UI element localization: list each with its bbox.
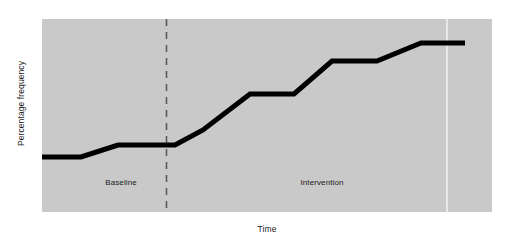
y-axis-title: Percentage frequency — [14, 7, 28, 200]
x-axis-title: Time — [42, 224, 492, 234]
phase-label-intervention: Intervention — [257, 178, 387, 187]
data-trend-line — [42, 43, 465, 157]
plot-area: Baseline Intervention — [42, 19, 492, 212]
phase-label-baseline: Baseline — [66, 178, 176, 187]
chart-figure: Baseline Intervention Percentage frequen… — [0, 0, 508, 248]
